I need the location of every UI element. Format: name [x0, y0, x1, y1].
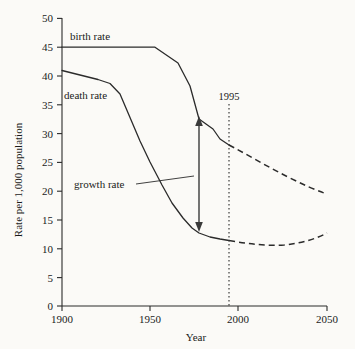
birth-rate-projection-line — [229, 145, 327, 194]
y-axis-ticks — [57, 18, 62, 306]
x-tick-label-1950: 1950 — [139, 313, 162, 325]
x-axis-title: Year — [186, 331, 207, 343]
chart-figure: 50 45 40 35 30 25 20 15 10 5 0 1900 1950… — [0, 0, 355, 349]
y-tick-label-35: 35 — [42, 99, 54, 111]
series-birth-rate: birth rate — [62, 30, 327, 194]
x-tick-label-2000: 2000 — [227, 313, 250, 325]
y-tick-label-40: 40 — [42, 70, 54, 82]
y-axis-tick-labels: 50 45 40 35 30 25 20 15 10 5 0 — [42, 12, 54, 312]
y-tick-label-45: 45 — [42, 41, 54, 53]
y-tick-label-10: 10 — [42, 243, 54, 255]
death-rate-label: death rate — [64, 89, 107, 101]
growth-rate-label: growth rate — [74, 178, 125, 190]
growth-rate-gap-arrow — [195, 116, 203, 232]
death-rate-projection-line — [229, 233, 327, 245]
y-axis-title: Rate per 1,000 population — [12, 122, 24, 237]
growth-rate-leader-line — [136, 176, 194, 184]
x-tick-label-1900: 1900 — [51, 313, 74, 325]
y-tick-label-0: 0 — [48, 300, 54, 312]
y-tick-label-50: 50 — [42, 12, 54, 24]
birth-rate-label: birth rate — [70, 30, 110, 42]
series-death-rate: death rate — [62, 71, 327, 246]
x-tick-label-2050: 2050 — [316, 313, 339, 325]
y-tick-label-5: 5 — [48, 272, 54, 284]
y-tick-label-30: 30 — [42, 128, 54, 140]
x-axis-ticks — [62, 306, 327, 311]
growth-rate-annotation: growth rate — [74, 176, 194, 190]
year-marker-1995-group: 1995 — [219, 91, 240, 306]
demographic-transition-chart: 50 45 40 35 30 25 20 15 10 5 0 1900 1950… — [0, 0, 355, 349]
x-axis-tick-labels: 1900 1950 2000 2050 — [51, 313, 339, 325]
axes-group — [62, 18, 327, 306]
y-tick-label-20: 20 — [42, 185, 54, 197]
y-tick-label-15: 15 — [42, 214, 54, 226]
year-marker-1995-label: 1995 — [219, 91, 240, 102]
y-tick-label-25: 25 — [42, 156, 54, 168]
